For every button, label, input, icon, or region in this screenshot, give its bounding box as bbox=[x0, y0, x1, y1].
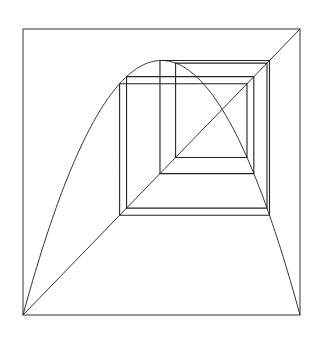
logistic-parabola bbox=[23, 60, 300, 315]
cobweb-diagram bbox=[0, 0, 324, 340]
cobweb-plot bbox=[0, 0, 324, 340]
identity-diagonal bbox=[23, 29, 300, 315]
